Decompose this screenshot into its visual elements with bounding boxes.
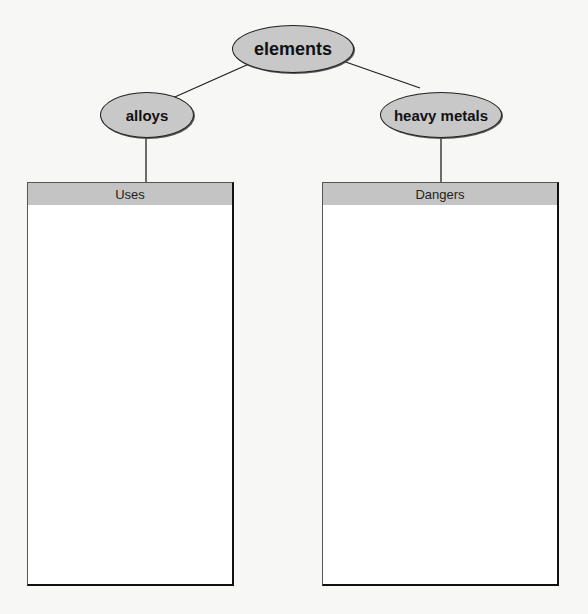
node-heavy-metals: heavy metals <box>380 92 502 138</box>
heavy-metals-label: heavy metals <box>394 107 488 124</box>
dangers-header: Dangers <box>323 183 557 205</box>
root-label: elements <box>254 39 332 60</box>
node-alloys: alloys <box>100 92 194 138</box>
root-node: elements <box>232 25 354 73</box>
dangers-box: Dangers <box>322 182 559 586</box>
uses-box: Uses <box>27 182 234 586</box>
alloys-label: alloys <box>126 107 169 124</box>
uses-header: Uses <box>28 183 232 205</box>
